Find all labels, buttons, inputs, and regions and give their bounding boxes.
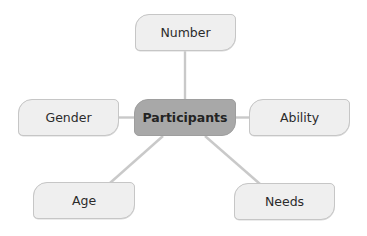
node-age[interactable]: Age xyxy=(33,182,135,219)
node-age-label: Age xyxy=(72,193,96,208)
node-participants-label: Participants xyxy=(142,110,227,125)
node-number[interactable]: Number xyxy=(135,14,236,51)
node-participants-center[interactable]: Participants xyxy=(134,99,236,136)
node-needs-label: Needs xyxy=(265,194,304,209)
connector-needs xyxy=(205,136,260,184)
node-ability-label: Ability xyxy=(280,110,319,125)
node-needs[interactable]: Needs xyxy=(234,183,335,220)
mind-map-diagram: Number Participants Gender Ability Age N… xyxy=(0,0,367,236)
node-ability[interactable]: Ability xyxy=(249,99,350,136)
node-gender[interactable]: Gender xyxy=(18,99,119,136)
node-number-label: Number xyxy=(160,25,210,40)
node-gender-label: Gender xyxy=(45,110,91,125)
connector-age xyxy=(110,136,163,183)
